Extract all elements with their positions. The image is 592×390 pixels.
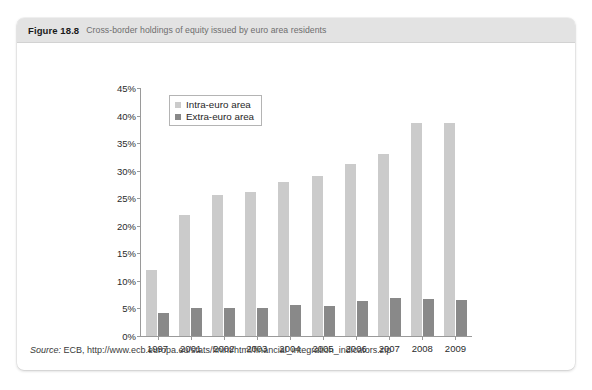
y-axis-label: 10% — [117, 275, 136, 286]
bar-group — [406, 88, 439, 336]
bar-intra-2005 — [312, 176, 323, 336]
bar-extra-2007 — [390, 298, 401, 336]
x-axis-tick — [191, 336, 192, 340]
source-url: ECB, http://www.ecb.europa.eu/stats/fini… — [61, 345, 391, 355]
x-axis-tick — [224, 336, 225, 340]
figure-card: Figure 18.8 Cross-border holdings of equ… — [17, 18, 575, 370]
x-axis-tick — [356, 336, 357, 340]
bar-extra-2003 — [257, 308, 268, 336]
plot-area: 0%5%10%15%20%25%30%35%40%45% 19972001200… — [140, 88, 472, 337]
x-axis-tick — [323, 336, 324, 340]
x-axis-tick — [290, 336, 291, 340]
x-axis-tick — [422, 336, 423, 340]
figure-number: Figure 18.8 — [28, 25, 79, 36]
source-line: Source: ECB, http://www.ecb.europa.eu/st… — [30, 345, 560, 355]
legend-label: Intra-euro area — [186, 99, 251, 110]
x-axis-tick — [257, 336, 258, 340]
x-axis-tick — [389, 336, 390, 340]
bar-intra-2001 — [179, 215, 190, 336]
bar-group — [439, 88, 472, 336]
bar-intra-2004 — [278, 182, 289, 336]
y-axis-label: 30% — [117, 165, 136, 176]
bar-group — [273, 88, 306, 336]
y-axis-label: 0% — [122, 331, 136, 342]
bar-extra-2009 — [456, 300, 467, 336]
bar-group — [307, 88, 340, 336]
bar-extra-2005 — [324, 306, 335, 336]
bar-group — [340, 88, 373, 336]
chart-legend: Intra-euro areaExtra-euro area — [169, 95, 262, 126]
bar-intra-2006 — [345, 164, 356, 336]
y-axis-label: 25% — [117, 193, 136, 204]
bar-extra-1997 — [158, 313, 169, 336]
y-axis-label: 45% — [117, 83, 136, 94]
y-axis-label: 35% — [117, 138, 136, 149]
figure-header: Figure 18.8 Cross-border holdings of equ… — [17, 18, 575, 43]
figure-caption: Cross-border holdings of equity issued b… — [86, 25, 326, 35]
bar-intra-2008 — [411, 123, 422, 336]
source-label: Source: — [30, 345, 61, 355]
y-axis-label: 15% — [117, 248, 136, 259]
y-axis-label: 20% — [117, 220, 136, 231]
legend-item-extra[interactable]: Extra-euro area — [175, 111, 254, 122]
bar-extra-2006 — [357, 301, 368, 336]
chart-region: 0%5%10%15%20%25%30%35%40%45% 19972001200… — [17, 43, 575, 343]
bar-intra-2002 — [212, 195, 223, 336]
legend-swatch-icon — [175, 114, 181, 120]
y-axis-tick — [137, 336, 141, 337]
y-axis-label: 40% — [117, 110, 136, 121]
legend-label: Extra-euro area — [186, 111, 254, 122]
bar-group — [373, 88, 406, 336]
x-axis-tick — [455, 336, 456, 340]
bar-extra-2002 — [224, 308, 235, 336]
legend-item-intra[interactable]: Intra-euro area — [175, 99, 254, 110]
bar-extra-2008 — [423, 299, 434, 336]
bar-extra-2004 — [290, 305, 301, 336]
bar-intra-2007 — [378, 154, 389, 336]
y-axis-label: 5% — [122, 303, 136, 314]
bar-intra-2009 — [444, 123, 455, 336]
legend-swatch-icon — [175, 102, 181, 108]
x-axis-tick — [158, 336, 159, 340]
bar-intra-2003 — [245, 192, 256, 336]
bar-intra-1997 — [146, 270, 157, 336]
bar-extra-2001 — [191, 308, 202, 336]
